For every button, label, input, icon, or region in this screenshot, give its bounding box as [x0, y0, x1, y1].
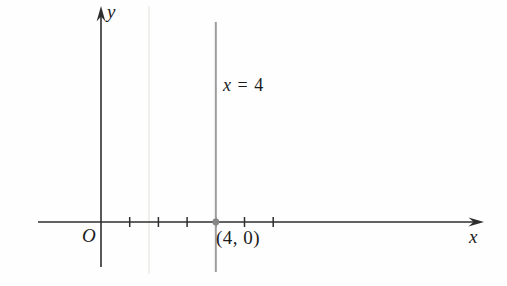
line-equation-value: = 4 [231, 75, 263, 95]
point-coordinates-label: (4, 0) [216, 228, 260, 247]
point-dot [212, 219, 219, 226]
coordinate-plane-figure: y x O x = 4 (4, 0) [0, 0, 507, 286]
line-equation-variable: x [223, 75, 231, 95]
x-axis-label: x [469, 227, 477, 246]
y-axis-label: y [107, 2, 115, 21]
line-equation-label: x = 4 [223, 76, 263, 94]
origin-label: O [82, 226, 96, 245]
